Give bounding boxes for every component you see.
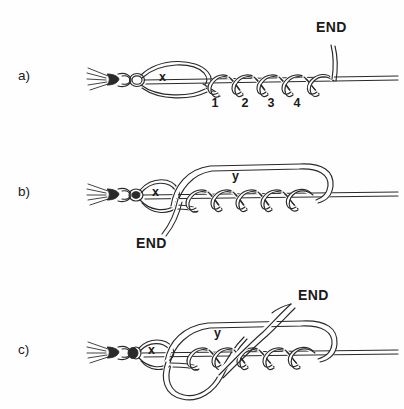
wraps-b (175, 189, 313, 212)
panel-b-label: b) (18, 184, 30, 199)
hook-eye-b (87, 184, 143, 205)
wrap-number-4: 4 (294, 96, 301, 110)
end-label-c: END (298, 287, 329, 303)
loop-x-label-a: x (159, 70, 166, 84)
panel-b-drawing: b) x y END (18, 164, 398, 251)
wrap-number-1: 1 (212, 96, 219, 110)
tag-end-a (331, 45, 337, 81)
loop-y-label-b: y (232, 169, 239, 183)
loop-x-label-b: x (152, 185, 159, 199)
panel-c-drawing: c) x y END (18, 287, 398, 400)
end-label-a: END (316, 19, 347, 35)
hook-eye-c (87, 342, 141, 363)
panel-c-label: c) (18, 342, 29, 357)
wraps-a (203, 74, 334, 97)
figure-page: a) x END 1 2 3 4 (0, 0, 404, 409)
hook-eye-a (87, 68, 145, 90)
panel-a-drawing: a) x END 1 2 3 4 (18, 19, 398, 110)
loop-y-label-c: y (214, 326, 221, 340)
end-label-b: END (136, 235, 167, 251)
panel-a-label: a) (18, 68, 30, 83)
wrap-number-2: 2 (242, 96, 249, 110)
wrap-number-3: 3 (268, 96, 275, 110)
knot-diagram-svg: a) x END 1 2 3 4 (0, 0, 404, 409)
loop-y-b (171, 164, 333, 208)
loop-x-label-c: x (148, 343, 155, 357)
